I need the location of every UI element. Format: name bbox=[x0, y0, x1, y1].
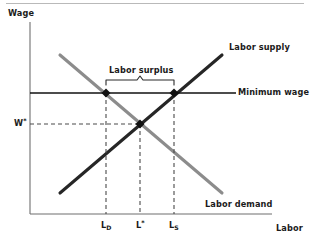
marker-supply-at-minimum-wage bbox=[169, 88, 178, 97]
quantity-demanded-tick-label: LD bbox=[101, 221, 112, 229]
equilibrium-quantity-tick-label: L* bbox=[136, 221, 145, 229]
labor-market-minimum-wage-diagram: Wage Labor Labor supply Labor demand Min… bbox=[0, 0, 310, 242]
labor-supply-curve-label: Labor supply bbox=[229, 43, 290, 51]
x-axis-label: Labor bbox=[276, 224, 303, 232]
quantity-supplied-tick-label: LS bbox=[169, 221, 179, 229]
labor-surplus-label: Labor surplus bbox=[109, 66, 174, 74]
equilibrium-quantity-tick-star: * bbox=[141, 219, 144, 227]
equilibrium-wage-tick-star: * bbox=[23, 117, 26, 125]
labor-surplus-brace bbox=[106, 76, 174, 85]
minimum-wage-label: Minimum wage bbox=[238, 88, 309, 96]
y-axis-label: Wage bbox=[8, 9, 34, 17]
equilibrium-wage-tick-label: W* bbox=[14, 119, 27, 127]
quantity-supplied-tick-sub: S bbox=[174, 224, 179, 231]
quantity-demanded-tick-sub: D bbox=[106, 224, 111, 231]
equilibrium-wage-tick-base: W bbox=[14, 118, 23, 128]
labor-demand-curve-label: Labor demand bbox=[205, 200, 272, 208]
